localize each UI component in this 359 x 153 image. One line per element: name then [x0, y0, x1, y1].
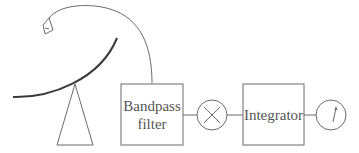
bandpass-label-line1: Bandpass	[123, 98, 181, 114]
feed-cable	[49, 6, 152, 83]
integrator-label: Integrator	[244, 107, 303, 123]
antenna-mount	[57, 84, 93, 145]
multiplier-icon	[197, 100, 227, 130]
radiometer-diagram: Bandpass filter Integrator	[0, 0, 359, 153]
bandpass-label-line2: filter	[137, 116, 166, 132]
meter-gauge-icon	[316, 100, 346, 130]
feed-horn-icon	[43, 18, 53, 34]
bandpass-filter-box: Bandpass filter	[121, 84, 183, 145]
dish-reflector	[13, 38, 117, 97]
integrator-box: Integrator	[243, 84, 304, 145]
